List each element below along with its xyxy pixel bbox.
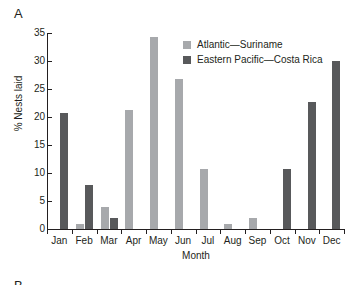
- x-tick-label-jun: Jun: [171, 235, 196, 246]
- bar-sep-series-0: [249, 218, 257, 229]
- bar-feb-series-1: [85, 185, 93, 229]
- y-tick-mark: [48, 229, 52, 230]
- x-tick-mark-jun: [171, 230, 172, 234]
- panel-label-b: B: [14, 278, 23, 285]
- x-tick-label-jul: Jul: [196, 235, 221, 246]
- x-tick-label-mar: Mar: [97, 235, 122, 246]
- x-tick-label-sep: Sep: [245, 235, 270, 246]
- legend-swatch-icon: [183, 56, 191, 64]
- x-tick-mark-jul: [196, 230, 197, 234]
- y-tick-label: 30: [34, 54, 45, 67]
- bar-may-series-0: [150, 37, 158, 229]
- chart-legend: Atlantic—SurinameEastern Pacific—Costa R…: [183, 38, 323, 68]
- x-tick-mark-nov: [295, 230, 296, 234]
- y-tick-20: 20: [0, 117, 52, 118]
- x-tick-mark-jan: [47, 230, 48, 234]
- x-tick-label-aug: Aug: [220, 235, 245, 246]
- x-tick-label-may: May: [146, 235, 171, 246]
- legend-label: Atlantic—Suriname: [197, 38, 283, 51]
- bar-jul-series-0: [200, 169, 208, 229]
- x-tick-mark-dec: [319, 230, 320, 234]
- x-tick-mark-oct: [270, 230, 271, 234]
- legend-swatch-icon: [183, 41, 191, 49]
- bar-jan-series-1: [60, 113, 68, 229]
- bar-mar-series-0: [101, 207, 109, 229]
- x-tick-mark-may: [146, 230, 147, 234]
- y-tick-30: 30: [0, 61, 52, 62]
- y-tick-label: 10: [34, 166, 45, 179]
- bar-dec-series-1: [332, 61, 340, 229]
- x-tick-mark-aug: [220, 230, 221, 234]
- y-tick-label: 5: [39, 194, 45, 207]
- bar-feb-series-0: [76, 224, 84, 229]
- x-axis-title: Month: [47, 250, 345, 261]
- bar-jun-series-0: [175, 79, 183, 229]
- y-tick-label: 25: [34, 82, 45, 95]
- y-tick-35: 35: [0, 33, 52, 34]
- y-tick-0: 0: [0, 229, 52, 230]
- x-tick-label-dec: Dec: [319, 235, 344, 246]
- x-tick-mark-end: [344, 230, 345, 234]
- bar-mar-series-1: [110, 218, 118, 229]
- x-tick-mark-feb: [72, 230, 73, 234]
- x-tick-label-apr: Apr: [121, 235, 146, 246]
- y-tick-5: 5: [0, 201, 52, 202]
- y-tick-label: 0: [39, 222, 45, 235]
- x-tick-label-nov: Nov: [295, 235, 320, 246]
- x-tick-label-feb: Feb: [72, 235, 97, 246]
- legend-label: Eastern Pacific—Costa Rica: [197, 53, 323, 66]
- x-tick-label-jan: Jan: [47, 235, 72, 246]
- bar-oct-series-1: [283, 169, 291, 229]
- bar-apr-series-0: [125, 110, 133, 229]
- y-tick-15: 15: [0, 145, 52, 146]
- x-tick-label-oct: Oct: [270, 235, 295, 246]
- panel-label-a: A: [14, 6, 23, 21]
- x-tick-mark-apr: [121, 230, 122, 234]
- legend-item-1: Eastern Pacific—Costa Rica: [183, 53, 323, 66]
- y-tick-10: 10: [0, 173, 52, 174]
- nesting-seasonality-bar-chart: A % Nests laid Month 05101520253035 JanF…: [0, 0, 356, 285]
- y-tick-label: 15: [34, 138, 45, 151]
- bar-nov-series-1: [308, 102, 316, 229]
- y-tick-25: 25: [0, 89, 52, 90]
- y-tick-label: 35: [34, 26, 45, 39]
- legend-item-0: Atlantic—Suriname: [183, 38, 323, 51]
- x-tick-mark-sep: [245, 230, 246, 234]
- x-tick-mark-mar: [97, 230, 98, 234]
- bar-aug-series-0: [224, 224, 232, 229]
- y-tick-label: 20: [34, 110, 45, 123]
